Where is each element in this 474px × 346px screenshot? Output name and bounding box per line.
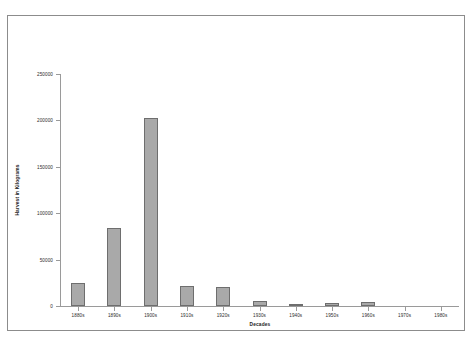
y-axis-title: Harvest in Kilograms [15, 165, 20, 216]
y-axis-tick-mark [56, 306, 61, 307]
x-axis-tick-label: 1900s [144, 313, 157, 318]
bar [107, 228, 121, 306]
x-axis-tick-mark [223, 307, 224, 311]
x-axis-tick-mark [405, 307, 406, 311]
y-axis-tick-label: 0 [50, 304, 53, 309]
y-axis-tick-mark [56, 120, 61, 121]
y-axis-tick-label: 150000 [37, 164, 53, 169]
x-axis-tick-mark [78, 307, 79, 311]
bar [325, 303, 339, 306]
bar [144, 118, 158, 306]
x-axis-tick-mark [114, 307, 115, 311]
bar [361, 302, 375, 306]
x-axis-tick-label: 1930s [253, 313, 266, 318]
x-axis-tick-label: 1950s [326, 313, 339, 318]
x-axis-tick-label: 1980s [434, 313, 447, 318]
x-axis-tick-label: 1960s [362, 313, 375, 318]
y-axis-tick-label: 200000 [37, 118, 53, 123]
bar [180, 286, 194, 306]
x-axis-tick-label: 1890s [108, 313, 121, 318]
x-axis-tick-mark [260, 307, 261, 311]
x-axis-tick-mark [187, 307, 188, 311]
y-axis-tick-mark [56, 74, 61, 75]
bar [253, 301, 267, 306]
y-axis-tick-label: 100000 [37, 211, 53, 216]
x-axis-tick-label: 1910s [180, 313, 193, 318]
y-axis-tick-mark [56, 213, 61, 214]
y-axis-tick-mark [56, 260, 61, 261]
x-axis-title: Decades [250, 322, 271, 327]
chart-plot-area: 050000100000150000200000250000 1880s1890… [8, 16, 466, 332]
x-axis-tick-label: 1940s [289, 313, 302, 318]
x-axis-tick-mark [332, 307, 333, 311]
bar [289, 304, 303, 306]
x-axis-tick-label: 1920s [217, 313, 230, 318]
x-axis-tick-label: 1970s [398, 313, 411, 318]
y-axis-tick-label: 50000 [40, 257, 53, 262]
chart-figure-frame: 050000100000150000200000250000 1880s1890… [7, 15, 465, 331]
bar [71, 283, 85, 306]
x-axis-tick-mark [441, 307, 442, 311]
bar [216, 287, 230, 306]
y-axis-tick-mark [56, 167, 61, 168]
x-axis-tick-mark [151, 307, 152, 311]
x-axis-tick-mark [368, 307, 369, 311]
x-axis-tick-label: 1880s [72, 313, 85, 318]
x-axis-tick-mark [296, 307, 297, 311]
y-axis-line [60, 74, 61, 307]
y-axis-tick-label: 250000 [37, 72, 53, 77]
